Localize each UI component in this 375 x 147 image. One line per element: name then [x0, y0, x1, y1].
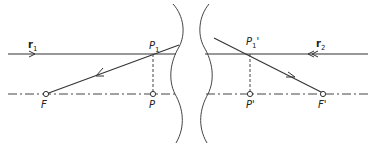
ray-r2-label: r2: [316, 39, 325, 52]
point-p1-prime-label: P1': [246, 37, 259, 50]
point-p-marker: [150, 91, 155, 96]
right-wavy-surface: [200, 4, 212, 143]
ray-r2-label-subscript: 2: [321, 44, 325, 52]
optical-diagram: r1 r2 P1 P1' F P P' F': [0, 0, 375, 147]
ray-r1-label-subscript: 1: [33, 45, 37, 53]
point-f-label: F: [41, 100, 47, 110]
left-wavy-surface: [171, 4, 183, 143]
ray-r2-refracted: [214, 38, 323, 93]
point-f-prime-marker: [320, 91, 325, 96]
diagram-canvas: [0, 0, 375, 147]
point-p-prime-marker: [247, 91, 252, 96]
ray-r1-refracted-arrow-icon: [96, 68, 104, 76]
ray-r1-label: r1: [28, 40, 37, 53]
point-p1-prime-mark: ': [257, 36, 260, 47]
point-p-prime-label: P': [246, 100, 255, 110]
point-p-label: P: [149, 100, 155, 110]
point-p1-label-subscript: 1: [155, 46, 159, 54]
point-f-marker: [43, 91, 48, 96]
point-p1-label: P1: [149, 41, 160, 54]
point-f-prime-label: F': [318, 100, 327, 110]
